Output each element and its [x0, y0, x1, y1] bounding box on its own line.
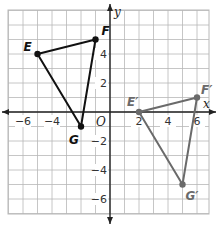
vertex-label: E′ — [127, 95, 139, 109]
y-axis-label: y — [113, 5, 121, 19]
x-axis-label: x — [203, 97, 210, 111]
vertex-point — [92, 36, 98, 42]
vertex-point — [179, 181, 185, 187]
vertex-point — [194, 94, 200, 100]
origin-label: O — [96, 115, 106, 129]
vertex-point — [34, 51, 40, 57]
vertex-point — [136, 109, 142, 115]
y-tick-label: −6 — [91, 193, 107, 206]
vertex-label: F — [102, 24, 111, 38]
y-axis-down-arrow-icon — [107, 217, 113, 224]
y-tick-label: −4 — [91, 164, 107, 177]
coordinate-plane: xyO −6−424642−2−4−6 EFGE′F′G′ — [0, 0, 220, 233]
x-axis-left-arrow-icon — [2, 109, 9, 115]
y-axis-up-arrow-icon — [107, 4, 113, 11]
vertex-label: E — [24, 40, 33, 54]
y-tick-label: 2 — [100, 77, 107, 90]
x-axis-right-arrow-icon — [209, 109, 216, 115]
x-tick-label: −4 — [44, 115, 60, 128]
vertex-label: G — [69, 133, 79, 147]
x-tick-label: 4 — [165, 115, 172, 128]
vertex-label: G′ — [186, 189, 200, 203]
y-tick-label: −2 — [91, 135, 107, 148]
x-tick-label: −6 — [15, 115, 31, 128]
vertex-point — [78, 123, 84, 129]
vertex-label: F′ — [201, 83, 213, 97]
y-tick-label: 4 — [100, 48, 107, 61]
